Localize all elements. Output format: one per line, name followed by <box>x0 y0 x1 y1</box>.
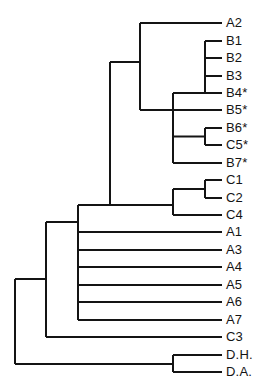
leaf-label-B7: B7* <box>226 155 248 170</box>
leaf-label-C4: C4 <box>226 207 243 222</box>
leaf-label-B1: B1 <box>226 33 242 48</box>
leaf-label-A3: A3 <box>226 242 242 257</box>
leaf-label-A5: A5 <box>226 277 242 292</box>
leaf-label-B3: B3 <box>226 68 242 83</box>
leaf-label-D.A.: D.A. <box>226 364 252 379</box>
leaf-label-A7: A7 <box>226 312 242 327</box>
leaf-label-B6: B6* <box>226 120 248 135</box>
dendrogram-canvas: A2B1B2B3B4*B5*B6*C5*B7*C1C2C4A1A3A4A5A6A… <box>0 0 279 388</box>
leaf-label-C1: C1 <box>226 172 243 187</box>
leaf-label-D.H.: D.H. <box>226 347 253 362</box>
leaf-label-B2: B2 <box>226 50 242 65</box>
leaf-label-C5: C5* <box>226 137 248 152</box>
leaf-label-A4: A4 <box>226 259 242 274</box>
leaf-labels-group: A2B1B2B3B4*B5*B6*C5*B7*C1C2C4A1A3A4A5A6A… <box>226 15 253 379</box>
dendrogram-figure: A2B1B2B3B4*B5*B6*C5*B7*C1C2C4A1A3A4A5A6A… <box>0 0 279 388</box>
leaf-label-C3: C3 <box>226 329 243 344</box>
leaf-label-A6: A6 <box>226 294 242 309</box>
leaf-label-B4: B4* <box>226 85 248 100</box>
leaf-label-A2: A2 <box>226 15 242 30</box>
leaf-label-C2: C2 <box>226 190 243 205</box>
tree-links-group <box>15 23 222 372</box>
leaf-label-B5: B5* <box>226 102 248 117</box>
leaf-label-A1: A1 <box>226 224 242 239</box>
